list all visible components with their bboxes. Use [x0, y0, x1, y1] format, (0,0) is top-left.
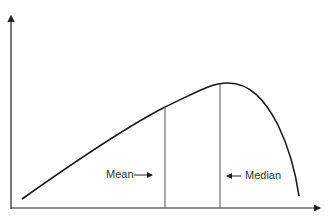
distribution-curve: [22, 83, 299, 199]
distribution-diagram: [0, 0, 333, 219]
median-label: Median: [245, 169, 281, 181]
mean-label: Mean: [106, 168, 134, 180]
